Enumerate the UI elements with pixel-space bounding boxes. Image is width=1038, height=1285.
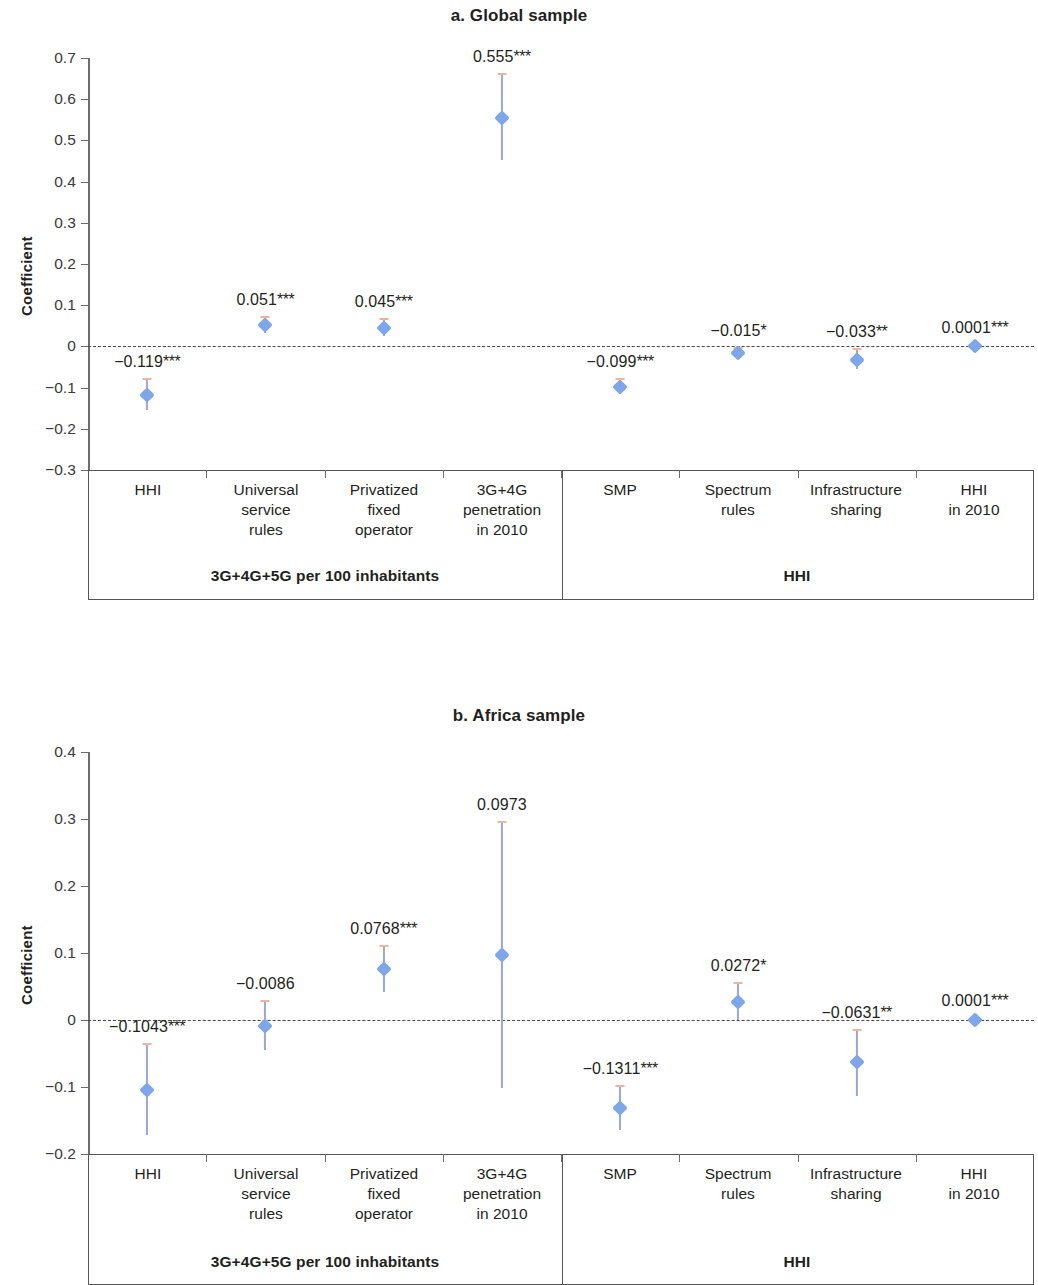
category-label-line: HHI — [89, 1164, 207, 1184]
error-bar-point[interactable]: −0.0631** — [798, 752, 916, 1154]
x-axis-category-label: Privatizedfixedoperator — [325, 1155, 443, 1239]
data-point-value: 0.0272 — [711, 957, 761, 974]
error-bar-point[interactable]: −0.119*** — [88, 58, 206, 470]
error-bar-point[interactable]: 0.555*** — [443, 58, 561, 470]
error-bar-point[interactable]: 0.0973 — [443, 752, 561, 1154]
category-label-line: Spectrum — [679, 480, 797, 500]
y-axis-tick-label: −0.1 — [45, 1078, 76, 1096]
y-axis-label: Coefficient — [18, 925, 35, 1005]
category-label-line: sharing — [797, 500, 915, 520]
category-label-line: service — [207, 1184, 325, 1204]
data-point-value-label: 0.0001*** — [942, 992, 1009, 1010]
x-axis-category-label: Spectrumrules — [679, 1155, 797, 1239]
data-point-value: 0.555 — [473, 48, 514, 65]
y-axis-tick-label: 0.1 — [54, 944, 76, 962]
category-label-line: operator — [325, 1204, 443, 1224]
category-label-line: in 2010 — [915, 500, 1033, 520]
coefficient-marker-icon — [967, 339, 983, 355]
category-label-line: Privatized — [325, 480, 443, 500]
confidence-interval-cap-icon — [852, 1029, 861, 1031]
group-separator-line — [562, 1155, 563, 1284]
x-axis-category-label: HHI — [89, 1155, 207, 1239]
error-bar-point[interactable]: −0.1043*** — [88, 752, 206, 1154]
data-point-value-label: 0.051*** — [237, 291, 295, 309]
y-axis-label: Coefficient — [18, 236, 35, 316]
y-axis-tick-label: 0.3 — [54, 214, 76, 232]
x-axis-category-label: Privatizedfixedoperator — [325, 471, 443, 554]
coefficient-marker-icon — [258, 318, 274, 334]
significance-stars: *** — [514, 48, 531, 65]
error-bar-point[interactable]: −0.033** — [798, 58, 916, 470]
category-label-line: Infrastructure — [797, 480, 915, 500]
y-axis-tick-mark — [81, 305, 88, 306]
category-label-line: in 2010 — [915, 1184, 1033, 1204]
panel-africa-sample: b. Africa sample Coefficient0.40.30.20.1… — [0, 690, 1038, 1285]
data-point-value: −0.033 — [826, 323, 876, 340]
confidence-interval-cap-icon — [616, 1085, 625, 1087]
significance-stars: *** — [991, 992, 1008, 1009]
x-axis-tick-mark — [325, 470, 326, 478]
confidence-interval-cap-icon — [852, 348, 861, 350]
x-axis-category-label: Universalservicerules — [207, 471, 325, 554]
category-label-line: 3G+4G — [443, 480, 561, 500]
data-point-value-label: −0.0631** — [821, 1004, 891, 1022]
panel-global-sample: a. Global sample Coefficient0.70.60.50.4… — [0, 0, 1038, 600]
category-label-line: sharing — [797, 1184, 915, 1204]
significance-stars: *** — [640, 1060, 657, 1077]
y-axis-tick-label: 0 — [67, 1011, 76, 1029]
y-axis-tick-mark — [81, 346, 88, 347]
category-label-line: in 2010 — [443, 1204, 561, 1224]
error-bar-point[interactable]: 0.0001*** — [916, 58, 1034, 470]
y-axis-tick-mark — [81, 58, 88, 59]
category-label-line: SMP — [561, 480, 679, 500]
data-point-value: 0.0768 — [350, 920, 400, 937]
x-axis-category-label: Spectrumrules — [679, 471, 797, 554]
significance-stars: *** — [277, 291, 294, 308]
y-axis-tick-mark — [81, 140, 88, 141]
y-axis-tick-mark — [81, 752, 88, 753]
coefficient-marker-icon — [967, 1012, 983, 1028]
significance-stars: * — [760, 957, 766, 974]
error-bar-point[interactable]: −0.0086 — [206, 752, 324, 1154]
data-point-value-label: 0.555*** — [473, 48, 531, 66]
data-point-value-label: 0.0001*** — [942, 319, 1009, 337]
error-bar-point[interactable]: 0.0272* — [679, 752, 797, 1154]
data-point-value: −0.119 — [114, 353, 163, 370]
error-bar-point[interactable]: −0.015* — [679, 58, 797, 470]
data-point-value-label: −0.0086 — [236, 975, 295, 993]
category-label-line: in 2010 — [443, 520, 561, 540]
error-bar-point[interactable]: −0.099*** — [561, 58, 679, 470]
confidence-interval-cap-icon — [497, 73, 506, 75]
plot-area-africa: Coefficient0.40.30.20.10−0.1−0.2−0.1043*… — [0, 752, 1038, 1154]
group-separator-line — [562, 471, 563, 599]
error-bar-point[interactable]: 0.0768*** — [325, 752, 443, 1154]
x-axis-group-label: 3G+4G+5G per 100 inhabitants — [89, 1253, 561, 1271]
data-point-value: −0.0631 — [821, 1004, 880, 1021]
data-point-value: −0.0086 — [236, 975, 295, 992]
x-axis-category-label: HHI — [89, 471, 207, 554]
y-axis-tick-label: 0.2 — [54, 877, 76, 895]
data-point-value-label: −0.015* — [711, 322, 767, 340]
x-axis-category-label: Infrastructuresharing — [797, 1155, 915, 1239]
x-axis-group-label: HHI — [561, 1253, 1033, 1271]
category-label-line: HHI — [915, 480, 1033, 500]
error-bar-point[interactable]: −0.1311*** — [561, 752, 679, 1154]
coefficient-marker-icon — [376, 961, 392, 977]
category-label-line: Universal — [207, 480, 325, 500]
data-point-value: −0.015 — [711, 322, 761, 339]
y-axis-tick-mark — [81, 1087, 88, 1088]
y-axis-tick-mark — [81, 1020, 88, 1021]
x-axis-tick-mark — [206, 470, 207, 478]
x-axis-tick-mark — [798, 1154, 799, 1162]
y-axis-tick-mark — [81, 429, 88, 430]
category-label-line: service — [207, 500, 325, 520]
data-point-value-label: −0.1043*** — [109, 1018, 185, 1036]
error-bar-point[interactable]: 0.051*** — [206, 58, 324, 470]
confidence-interval-cap-icon — [734, 982, 743, 984]
error-bar-point[interactable]: 0.0001*** — [916, 752, 1034, 1154]
error-bar-point[interactable]: 0.045*** — [325, 58, 443, 470]
coefficient-marker-icon — [731, 994, 747, 1010]
coefficient-marker-icon — [612, 1100, 628, 1116]
y-axis-tick-mark — [81, 953, 88, 954]
significance-stars: *** — [163, 353, 180, 370]
